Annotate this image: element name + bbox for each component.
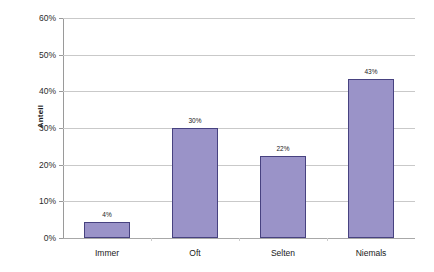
y-tick-label: 30% (39, 123, 56, 133)
bar-value-label-immer: 4% (102, 211, 111, 218)
y-tick-mark (59, 238, 63, 239)
bar-value-label-niemals: 43% (364, 68, 377, 75)
bar-immer[interactable] (84, 222, 130, 238)
x-axis-label-selten: Selten (271, 248, 295, 258)
y-tick-label: 60% (39, 13, 56, 23)
y-tick-label: 20% (39, 160, 56, 170)
x-axis-label-niemals: Niemals (356, 248, 387, 258)
category-separator (327, 238, 328, 241)
y-tick-label: 0% (44, 233, 56, 243)
bar-selten[interactable] (260, 156, 306, 238)
category-separator (151, 238, 152, 241)
y-tick-label: 50% (39, 50, 56, 60)
bar-chart: Anteil 0%10%20%30%40%50%60% 4%30%22%43% … (0, 0, 434, 272)
x-axis-label-oft: Oft (189, 248, 200, 258)
x-axis-label-immer: Immer (95, 248, 119, 258)
bars: 4%30%22%43% (63, 18, 415, 238)
y-tick-label: 40% (39, 86, 56, 96)
bar-value-label-oft: 30% (188, 117, 201, 124)
bar-niemals[interactable] (348, 79, 394, 238)
bar-value-label-selten: 22% (276, 145, 289, 152)
bar-oft[interactable] (172, 128, 218, 238)
y-tick-label: 10% (39, 196, 56, 206)
plot-area: 0%10%20%30%40%50%60% 4%30%22%43% (63, 18, 415, 238)
category-separator (239, 238, 240, 241)
